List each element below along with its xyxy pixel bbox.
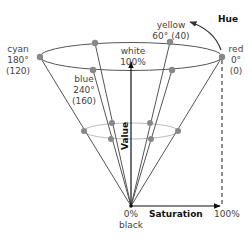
red-label: red 0° (0) bbox=[226, 44, 246, 77]
cyan-label: cyan 180° (120) bbox=[4, 44, 32, 77]
hue-axis-label: Hue bbox=[218, 14, 238, 25]
apex-dot bbox=[129, 204, 133, 208]
white-label: white 100% bbox=[116, 46, 150, 68]
hsv-cone-diagram: Value cyan 180° (120) yellow 60° (40) re… bbox=[0, 0, 252, 241]
saturation-max-label: 100% bbox=[214, 209, 240, 220]
saturation-axis-label: Saturation bbox=[149, 209, 203, 220]
yellow-label: yellow 60° (40) bbox=[146, 20, 196, 42]
blue-label: blue 240° (160) bbox=[71, 74, 97, 107]
cone-drawing: Value bbox=[0, 0, 252, 241]
value-axis-label: Value bbox=[120, 122, 130, 150]
black-label: 0% black bbox=[118, 209, 144, 231]
